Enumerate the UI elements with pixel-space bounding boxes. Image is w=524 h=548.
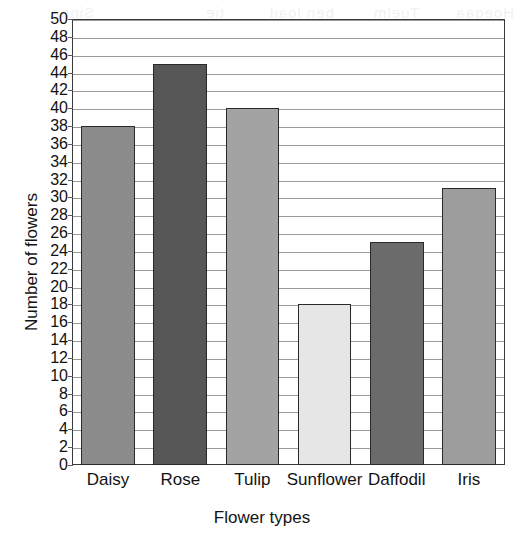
y-tick-label: 22 — [50, 261, 68, 277]
gridline — [73, 377, 504, 378]
x-tick-label-tulip: Tulip — [234, 470, 270, 490]
y-tick-label: 24 — [50, 243, 68, 259]
y-tick-mark — [68, 269, 73, 270]
y-tick-label: 38 — [50, 118, 68, 134]
y-tick-mark — [68, 322, 73, 323]
y-tick-label: 20 — [50, 279, 68, 295]
y-tick-mark — [68, 251, 73, 252]
y-tick-label: 26 — [50, 225, 68, 241]
bar-daffodil[interactable] — [370, 242, 424, 465]
y-tick-mark — [68, 411, 73, 412]
y-tick-label: 10 — [50, 368, 68, 384]
y-tick-mark — [68, 429, 73, 430]
y-tick-label: 34 — [50, 154, 68, 170]
gridline — [73, 20, 504, 21]
y-tick-mark — [68, 108, 73, 109]
y-tick-mark — [68, 162, 73, 163]
bar-iris[interactable] — [442, 188, 496, 465]
gridline — [73, 163, 504, 164]
y-tick-label: 16 — [50, 314, 68, 330]
gridline — [73, 341, 504, 342]
y-tick-mark — [68, 55, 73, 56]
y-tick-label: 12 — [50, 350, 68, 366]
y-tick-label: 46 — [50, 47, 68, 63]
y-tick-label: 8 — [59, 386, 68, 402]
x-tick-label-sunflower: Sunflower — [287, 470, 363, 490]
y-tick-label: 42 — [50, 82, 68, 98]
y-tick-mark — [68, 233, 73, 234]
y-tick-mark — [68, 340, 73, 341]
y-tick-mark — [68, 394, 73, 395]
gridline — [73, 288, 504, 289]
y-tick-label: 30 — [50, 189, 68, 205]
gridline — [73, 323, 504, 324]
gridline — [73, 395, 504, 396]
y-tick-label: 6 — [59, 403, 68, 419]
y-tick-mark — [68, 126, 73, 127]
bar-rose[interactable] — [153, 64, 207, 465]
gridline — [73, 109, 504, 110]
gridline — [73, 305, 504, 306]
y-tick-label: 40 — [50, 100, 68, 116]
y-tick-mark — [68, 19, 73, 20]
y-tick-mark — [68, 376, 73, 377]
gridline — [73, 359, 504, 360]
gridline — [73, 181, 504, 182]
y-tick-label: 48 — [50, 29, 68, 45]
y-tick-label: 14 — [50, 332, 68, 348]
gridline — [73, 448, 504, 449]
gridline — [73, 38, 504, 39]
y-tick-label: 50 — [50, 11, 68, 27]
y-tick-mark — [68, 144, 73, 145]
y-tick-mark — [68, 304, 73, 305]
y-tick-mark — [68, 90, 73, 91]
y-tick-label: 44 — [50, 65, 68, 81]
y-tick-mark — [68, 180, 73, 181]
gridline — [73, 430, 504, 431]
y-tick-label: 36 — [50, 136, 68, 152]
x-axis-title: Flower types — [0, 508, 524, 528]
gridline — [73, 270, 504, 271]
gridline — [73, 252, 504, 253]
y-tick-label: 28 — [50, 207, 68, 223]
y-tick-mark — [68, 447, 73, 448]
y-tick-mark — [68, 215, 73, 216]
bar-daisy[interactable] — [81, 126, 135, 465]
plot-area — [72, 19, 505, 465]
y-tick-label: 4 — [59, 421, 68, 437]
gridline — [73, 234, 504, 235]
y-tick-mark — [68, 465, 73, 466]
gridline — [73, 216, 504, 217]
gridline — [73, 56, 504, 57]
gridline — [73, 412, 504, 413]
gridline — [73, 91, 504, 92]
x-axis-tick-labels: DaisyRoseTulipSunflowerDaffodilIris — [72, 470, 505, 496]
y-tick-mark — [68, 358, 73, 359]
x-tick-label-iris: Iris — [458, 470, 481, 490]
x-tick-label-rose: Rose — [160, 470, 200, 490]
bar-chart-figure: Number of flowers 0246810121416182022242… — [0, 0, 524, 548]
y-tick-label: 18 — [50, 296, 68, 312]
y-tick-label: 2 — [59, 439, 68, 455]
y-tick-mark — [68, 287, 73, 288]
y-tick-mark — [68, 37, 73, 38]
x-tick-label-daisy: Daisy — [87, 470, 130, 490]
bar-tulip[interactable] — [226, 108, 280, 465]
gridline — [73, 145, 504, 146]
gridline — [73, 74, 504, 75]
y-tick-mark — [68, 73, 73, 74]
y-axis-tick-labels: 0246810121416182022242628303234363840424… — [34, 19, 68, 465]
gridline — [73, 198, 504, 199]
y-tick-label: 0 — [59, 457, 68, 473]
bar-sunflower[interactable] — [298, 304, 352, 465]
gridline — [73, 127, 504, 128]
y-tick-mark — [68, 197, 73, 198]
x-tick-label-daffodil: Daffodil — [368, 470, 425, 490]
y-tick-label: 32 — [50, 172, 68, 188]
